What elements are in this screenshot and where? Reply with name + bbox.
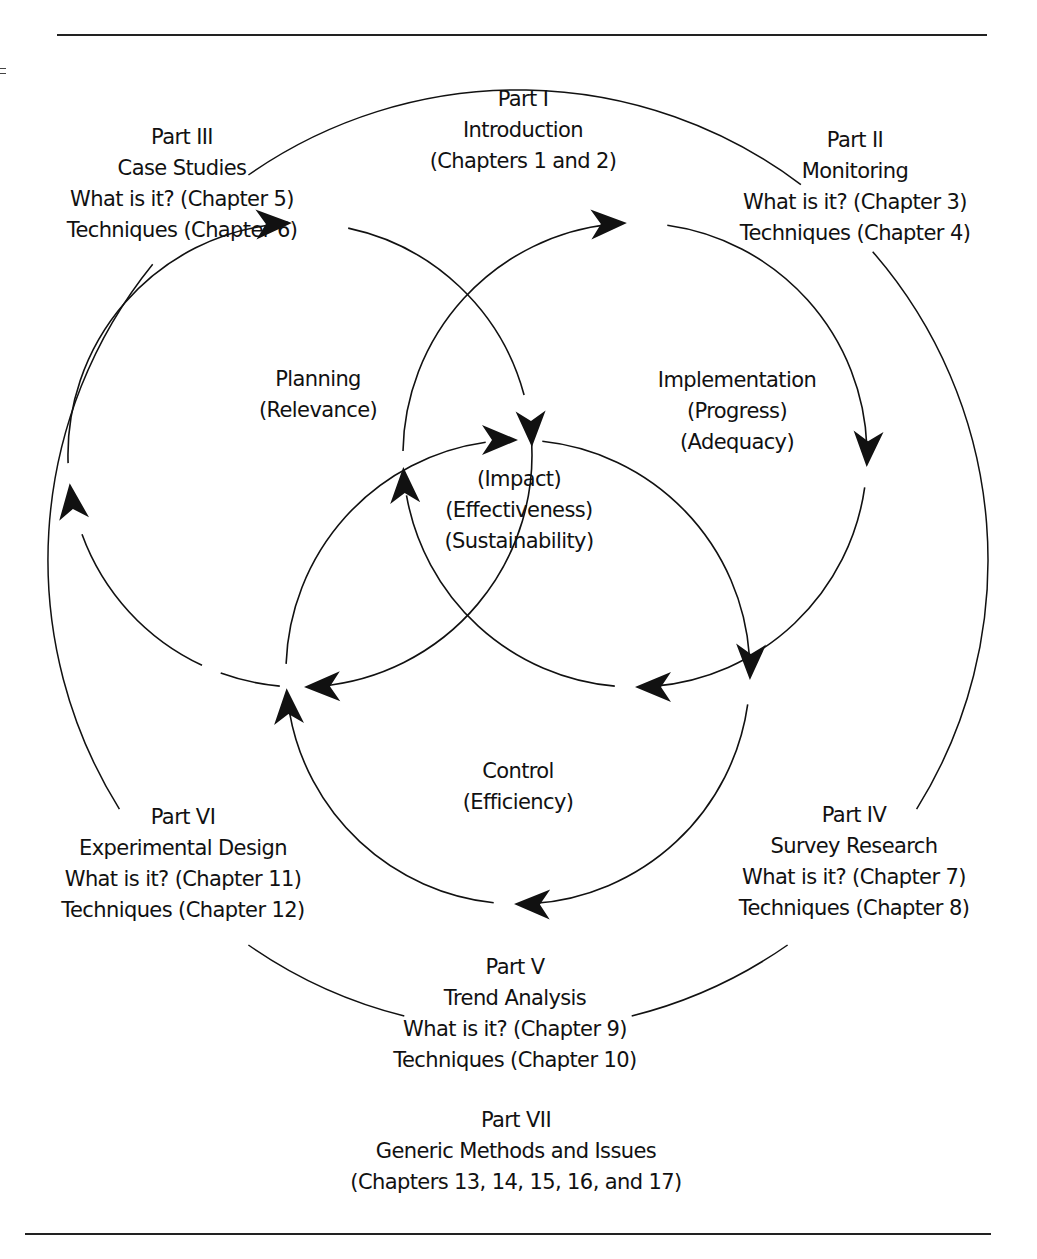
part-vii-line: Generic Methods and Issues [350,1136,681,1167]
label-planning: Planning (Relevance) [259,364,377,426]
part-ii-line: Monitoring [740,156,971,187]
label-center: (Impact) (Effectiveness) (Sustainability… [445,464,594,557]
outer-ring-arc-right [873,252,988,809]
part-iv-line: Survey Research [739,831,970,862]
part-v-line: Trend Analysis [393,983,636,1014]
label-part-vi: Part VI Experimental Design What is it? … [61,802,304,926]
label-implementation: Implementation (Progress) (Adequacy) [658,365,816,458]
label-part-vii: Part VII Generic Methods and Issues (Cha… [350,1105,681,1198]
part-iv-line: Techniques (Chapter 8) [739,893,970,924]
arrowhead-icon [482,425,518,455]
arrowhead-icon [635,672,671,702]
part-i-line: Introduction [430,115,617,146]
implementation-line: (Adequacy) [658,427,816,458]
planning-cycle-arc [68,224,276,463]
part-ii-title: Part II [740,125,971,156]
part-iii-line: Case Studies [67,153,298,184]
arrowhead-icon [514,890,550,920]
part-i-line: (Chapters 1 and 2) [430,146,617,177]
planning-title: Planning [259,364,377,395]
part-iv-line: What is it? (Chapter 7) [739,862,970,893]
label-part-i: Part I Introduction (Chapters 1 and 2) [430,84,617,177]
part-v-line: What is it? (Chapter 9) [393,1014,636,1045]
control-line: (Efficiency) [463,787,574,818]
part-vi-line: Experimental Design [61,833,304,864]
implementation-cycle-arc [403,224,611,451]
part-i-title: Part I [430,84,617,115]
center-line: (Impact) [445,464,594,495]
arrowhead-icon [516,410,546,447]
implementation-line: (Progress) [658,396,816,427]
outer-ring-arc-bottom-right [632,945,788,1016]
arrowhead-icon [390,467,420,504]
center-line: (Effectiveness) [445,495,594,526]
implementation-title: Implementation [658,365,816,396]
label-control: Control (Efficiency) [463,756,574,818]
arrowhead-icon [59,483,89,521]
planning-line: (Relevance) [259,395,377,426]
part-vi-title: Part VI [61,802,304,833]
planning-cycle-arc [82,534,202,665]
label-part-iv: Part IV Survey Research What is it? (Cha… [739,800,970,924]
part-iii-line: What is it? (Chapter 5) [67,184,298,215]
label-part-iii: Part III Case Studies What is it? (Chapt… [67,122,298,246]
part-vii-title: Part VII [350,1105,681,1136]
outer-ring-arc-bottom-left [248,945,404,1016]
center-line: (Sustainability) [445,526,594,557]
arrowhead-icon [304,671,340,701]
control-title: Control [463,756,574,787]
part-ii-line: Techniques (Chapter 4) [740,218,971,249]
part-vi-line: Techniques (Chapter 12) [61,895,304,926]
part-vii-line: (Chapters 13, 14, 15, 16, and 17) [350,1167,681,1198]
part-v-title: Part V [393,952,636,983]
part-iv-title: Part IV [739,800,970,831]
part-iii-line: Techniques (Chapter 6) [67,215,298,246]
outer-ring-arc-left [48,264,153,809]
arrowhead-icon [854,430,884,467]
label-part-ii: Part II Monitoring What is it? (Chapter … [740,125,971,249]
part-vi-line: What is it? (Chapter 11) [61,864,304,895]
arrowhead-icon [590,209,627,239]
arrowhead-icon [274,688,304,725]
part-v-line: Techniques (Chapter 10) [393,1045,636,1076]
planning-cycle-arc [221,673,280,686]
part-iii-title: Part III [67,122,298,153]
part-ii-line: What is it? (Chapter 3) [740,187,971,218]
label-part-v: Part V Trend Analysis What is it? (Chapt… [393,952,636,1076]
